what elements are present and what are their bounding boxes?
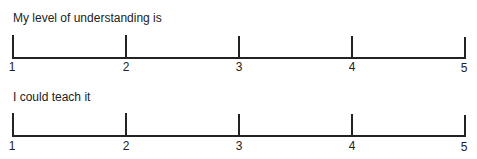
scale-tick-5[interactable] (464, 115, 466, 137)
scale-prompt: My level of understanding is (13, 11, 162, 25)
scale-label-2: 2 (119, 60, 133, 74)
scale-label-2: 2 (119, 139, 133, 153)
scale-label-4: 4 (345, 60, 359, 74)
scale-tick-1[interactable] (12, 113, 14, 137)
scale-label-1: 1 (5, 139, 19, 153)
scale-tick-2[interactable] (125, 35, 127, 59)
rating-scale-understanding: My level of understanding is 1 2 3 4 5 (0, 0, 477, 80)
scale-label-3: 3 (232, 60, 246, 74)
scale-label-5: 5 (457, 61, 471, 75)
scale-tick-4[interactable] (351, 36, 353, 59)
scale-label-3: 3 (232, 139, 246, 153)
scale-label-5: 5 (457, 140, 471, 154)
scale-prompt: I could teach it (13, 90, 90, 104)
scale-tick-4[interactable] (351, 114, 353, 137)
rating-scale-teach: I could teach it 1 2 3 4 5 (0, 80, 477, 159)
scale-tick-1[interactable] (12, 35, 14, 59)
scale-tick-5[interactable] (464, 37, 466, 59)
scale-label-1: 1 (5, 60, 19, 74)
scale-tick-3[interactable] (238, 114, 240, 137)
scale-label-4: 4 (345, 139, 359, 153)
scale-tick-3[interactable] (238, 36, 240, 59)
scale-tick-2[interactable] (125, 113, 127, 137)
